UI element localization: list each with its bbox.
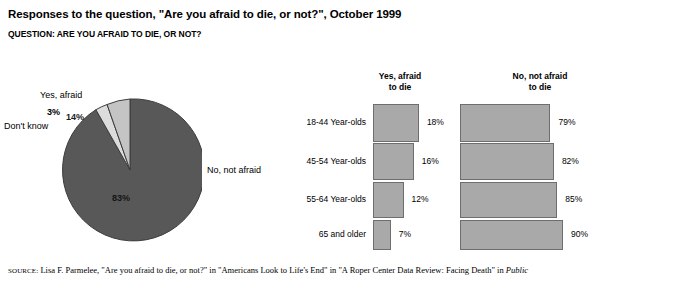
column-header-no-line2: to die [529, 82, 552, 92]
bar-value-no-not-afraid: 82% [562, 156, 579, 166]
bar-yes-afraid [373, 104, 419, 142]
bar-no-not-afraid [460, 104, 550, 142]
bar-no-not-afraid [460, 143, 554, 180]
bar-row: 65 and older7%90% [0, 220, 685, 250]
bar-row: 45-54 Year-olds16%82% [0, 143, 685, 180]
column-header-no-not-afraid: No, not afraid to die [460, 71, 620, 92]
column-header-no-line1: No, not afraid [513, 71, 568, 81]
bar-value-no-not-afraid: 90% [571, 229, 588, 239]
source-text: Lisa F. Parmelee, "Are you afraid to die… [38, 265, 506, 275]
bar-value-yes-afraid: 7% [399, 229, 411, 239]
bar-value-yes-afraid: 12% [412, 194, 429, 204]
bar-yes-afraid [373, 182, 404, 218]
bar-value-yes-afraid: 18% [427, 117, 444, 127]
bar-row-label: 55-64 Year-olds [288, 194, 366, 204]
bar-value-no-not-afraid: 79% [558, 117, 575, 127]
bar-value-no-not-afraid: 85% [565, 194, 582, 204]
bar-no-not-afraid [460, 220, 563, 250]
bar-value-yes-afraid: 16% [422, 156, 439, 166]
bar-row-label: 45-54 Year-olds [288, 156, 366, 166]
bar-row: 55-64 Year-olds12%85% [0, 182, 685, 218]
source-note: SOURCE: Lisa F. Parmelee, "Are you afrai… [8, 265, 528, 275]
bar-yes-afraid [373, 143, 414, 180]
source-label: SOURCE: [8, 267, 38, 275]
bar-no-not-afraid [460, 182, 557, 218]
column-header-yes-line1: Yes, afraid [379, 71, 422, 81]
bar-yes-afraid [373, 220, 391, 250]
column-header-yes-afraid: Yes, afraid to die [340, 71, 460, 92]
column-header-yes-line2: to die [389, 82, 412, 92]
bar-row-label: 65 and older [288, 229, 366, 239]
bar-row: 18-44 Year-olds18%79% [0, 104, 685, 142]
bar-row-label: 18-44 Year-olds [288, 117, 366, 127]
source-publication: Public [506, 265, 528, 275]
bar-chart: Yes, afraid to die No, not afraid to die… [0, 0, 685, 258]
